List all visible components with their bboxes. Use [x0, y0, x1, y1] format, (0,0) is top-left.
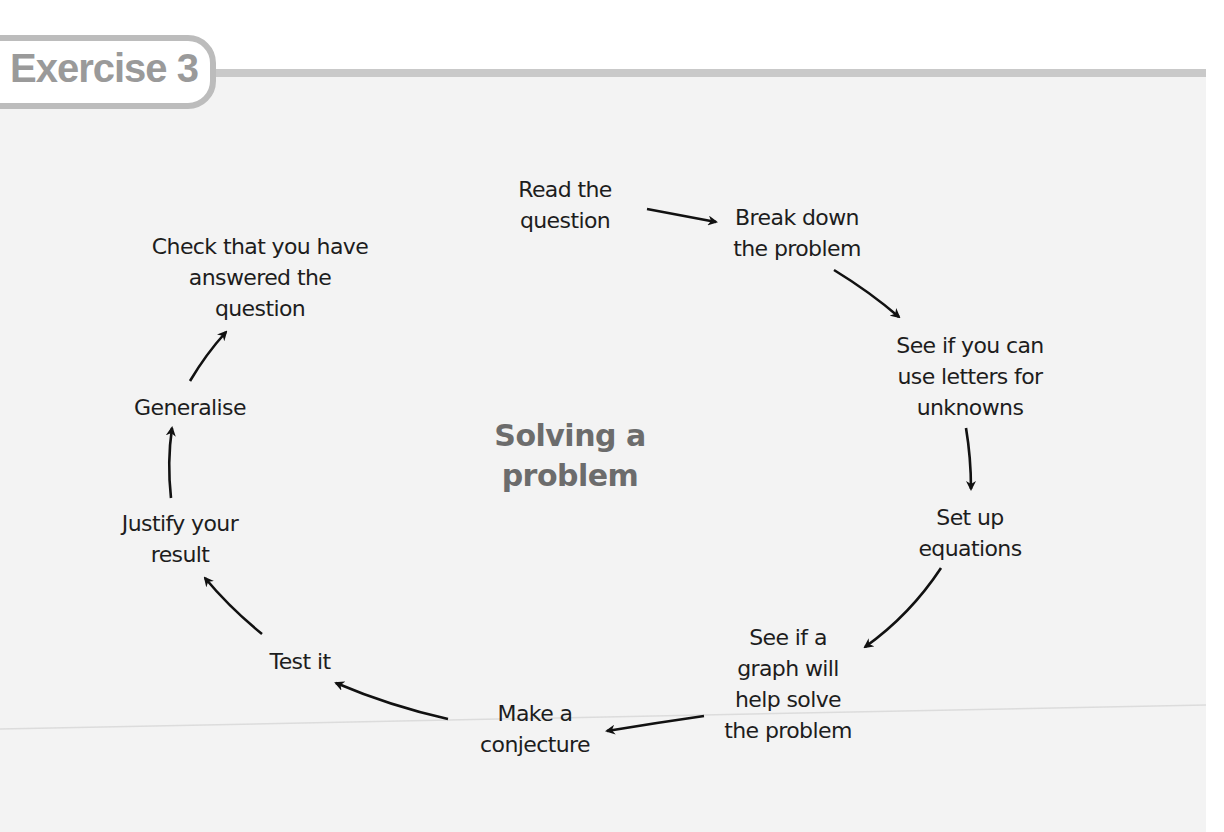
arrow-letters-to-equations — [966, 428, 971, 489]
flow-arrows — [0, 0, 1224, 832]
arrow-generalise-to-check — [190, 332, 226, 381]
arrow-read-to-break — [647, 209, 716, 222]
arrow-justify-to-generalise — [169, 428, 172, 498]
arrow-break-to-letters — [834, 270, 899, 317]
arrow-graph-to-conjecture — [607, 716, 704, 731]
arrow-test-to-justify — [205, 578, 262, 634]
arrow-conjecture-to-test — [336, 683, 448, 719]
arrow-equations-to-graph — [865, 568, 941, 647]
